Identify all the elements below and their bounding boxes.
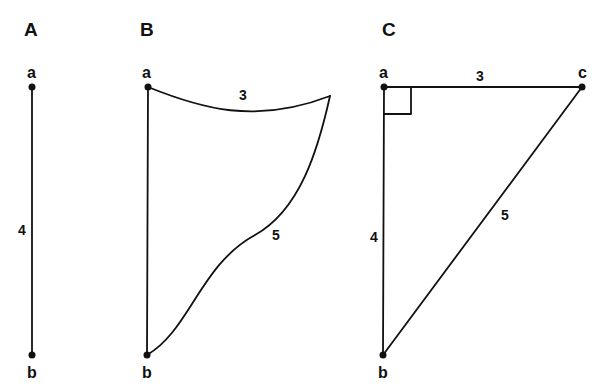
panel-b-edge-ab [147,87,148,355]
panel-c-point-a [381,84,388,91]
panel-b-length-side: 5 [272,227,280,243]
panel-c: C a c 3 4 5 b [370,19,587,381]
panel-c-point-c [579,84,586,91]
panel-c-point-b [380,352,387,359]
panel-c-length-ac: 3 [476,68,484,84]
panel-c-vertex-b: b [378,364,388,381]
panel-a-point-b [29,352,36,359]
panel-b: B a 3 5 b [140,19,330,381]
panel-b-title: B [140,19,154,40]
panel-c-length-bc: 5 [501,207,509,223]
panel-c-vertex-c: c [578,64,587,81]
panel-c-edge-bc [383,87,582,355]
panel-b-length-top: 3 [239,87,247,103]
panel-c-edge-ab [383,87,384,355]
panel-b-vertex-a: a [142,64,151,81]
panel-b-curve-side [147,96,330,355]
panel-c-length-ab: 4 [370,229,378,245]
panel-c-right-angle-marker [384,87,411,114]
panel-a-vertex-b: b [27,364,37,381]
panel-a-length-ab: 4 [18,222,26,238]
panel-a-title: A [24,19,38,40]
panel-b-point-b [144,352,151,359]
panel-b-vertex-b: b [142,364,152,381]
triangle-diagram: A a 4 b B a 3 5 b C a c 3 4 5 b [0,0,609,392]
panel-c-title: C [382,19,396,40]
panel-a-vertex-a: a [27,64,36,81]
panel-a: A a 4 b [18,19,38,381]
panel-a-point-a [29,84,36,91]
panel-b-point-a [145,84,152,91]
panel-c-vertex-a: a [379,64,388,81]
